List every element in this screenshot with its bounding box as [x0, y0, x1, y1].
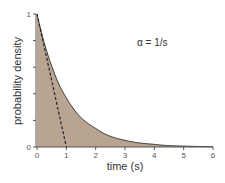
density-area: [37, 14, 213, 147]
x-tick-label: 4: [152, 151, 157, 160]
x-axis-label: time (s): [107, 160, 144, 172]
x-tick-label: 1: [64, 151, 69, 160]
exponential-density-chart: 012345601 time (s) probability density α…: [0, 0, 225, 183]
x-tick-label: 6: [211, 151, 216, 160]
x-tick-label: 0: [35, 151, 40, 160]
x-tick-label: 2: [93, 151, 98, 160]
y-axis-label: probability density: [11, 36, 23, 125]
y-tick-label: 0: [27, 143, 32, 152]
alpha-annotation: α = 1/s: [137, 37, 168, 48]
x-tick-label: 3: [123, 151, 128, 160]
density-fill: [37, 14, 213, 147]
y-tick-label: 1: [27, 10, 32, 19]
x-tick-label: 5: [181, 151, 186, 160]
